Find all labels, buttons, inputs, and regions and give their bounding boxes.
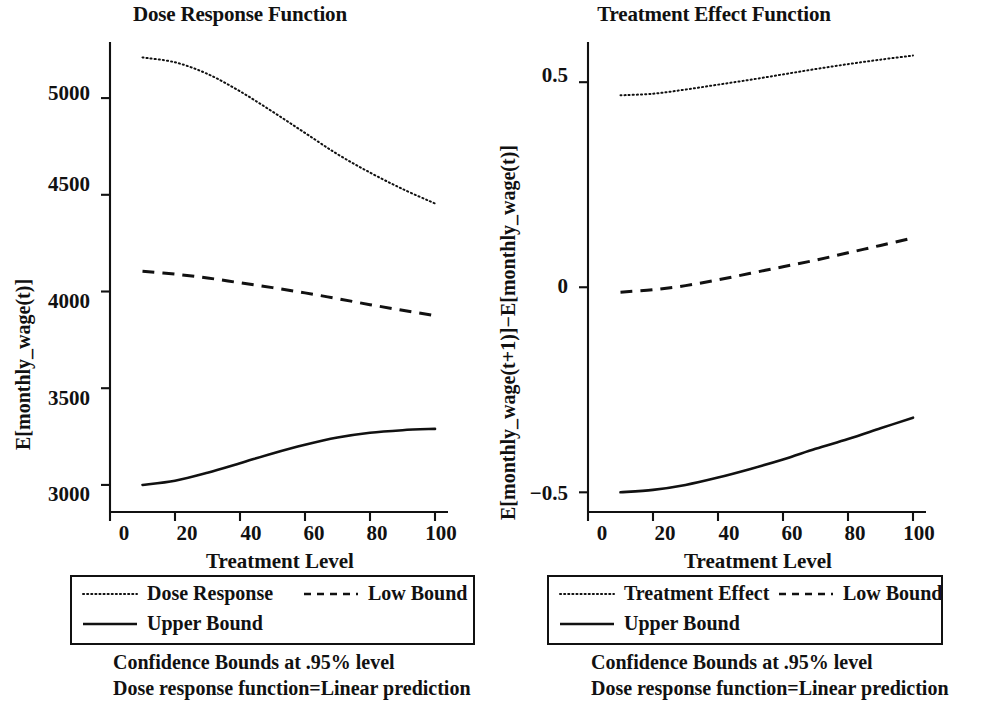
axis-ticks-left	[101, 98, 435, 521]
ytick-label-pos05: 0.5	[496, 63, 568, 88]
x-axis-title-left: Treatment Level	[130, 549, 430, 574]
legend-row-upper-bound: Upper Bound	[559, 612, 740, 635]
chart-panel-dose-response: Dose Response Function 3000 3500 4000 45…	[0, 0, 493, 707]
xtick-label-60: 60	[284, 521, 344, 546]
ytick-label-3000: 3000	[18, 482, 90, 507]
footnote-confidence-right: Confidence Bounds at .95% level	[591, 650, 873, 675]
xtick-label-80-right: 80	[825, 521, 885, 546]
legend-label-upper-bound: Upper Bound	[147, 612, 263, 635]
footnote-linear-prediction-right: Dose response function=Linear prediction	[591, 676, 949, 701]
legend-key-dashed-icon	[303, 587, 359, 601]
legend-row-low-bound: Low Bound	[303, 582, 468, 605]
legend-key-dotted-icon	[82, 587, 138, 601]
legend-label-low-bound: Low Bound	[843, 582, 943, 605]
legend-row-upper-bound: Upper Bound	[82, 612, 263, 635]
legend-key-dashed-icon	[778, 587, 834, 601]
ytick-label-4500: 4500	[18, 172, 90, 197]
series-line-low-bound	[621, 238, 914, 292]
data-series-right	[621, 56, 914, 493]
series-line-low-bound	[143, 271, 436, 315]
xtick-label-100-right: 100	[889, 521, 949, 546]
xtick-label-40-right: 40	[699, 521, 759, 546]
legend-label-upper-bound: Upper Bound	[624, 612, 740, 635]
legend-box-right: Treatment Effect Low Bound Upper Bound	[547, 575, 943, 645]
x-axis-title-right: Treatment Level	[608, 549, 908, 574]
xtick-label-80: 80	[347, 521, 407, 546]
legend-row-dose-response: Dose Response	[82, 582, 273, 605]
chart-panel-treatment-effect: Treatment Effect Function −0.5 0 0.5 0 2…	[494, 0, 987, 707]
series-line-dose-response	[143, 57, 436, 203]
footnote-linear-prediction-left: Dose response function=Linear prediction	[113, 676, 471, 701]
legend-label-low-bound: Low Bound	[368, 582, 468, 605]
footnote-confidence-left: Confidence Bounds at .95% level	[113, 650, 395, 675]
legend-key-solid-icon	[82, 617, 138, 631]
y-axis-title-left: E[monthly_wage(t)]	[12, 279, 35, 450]
xtick-label-60-right: 60	[762, 521, 822, 546]
legend-row-treatment-effect: Treatment Effect	[559, 582, 769, 605]
xtick-label-0-right: 0	[572, 521, 632, 546]
legend-key-dotted-icon	[559, 587, 615, 601]
data-series-left	[143, 57, 436, 484]
xtick-label-20: 20	[157, 521, 217, 546]
figure-page: Dose Response Function 3000 3500 4000 45…	[0, 0, 987, 707]
legend-label-dose-response: Dose Response	[147, 582, 273, 605]
axis-ticks-right	[579, 82, 913, 521]
series-line-treatment-effect	[621, 56, 914, 96]
legend-key-solid-icon	[559, 617, 615, 631]
legend-row-low-bound: Low Bound	[778, 582, 943, 605]
ytick-label-5000: 5000	[18, 81, 90, 106]
xtick-label-100: 100	[411, 521, 471, 546]
xtick-label-20-right: 20	[635, 521, 695, 546]
legend-label-treatment-effect: Treatment Effect	[624, 582, 769, 605]
series-line-upper-bound	[621, 418, 914, 493]
y-axis-title-right: E[monthly_wage(t+1)]−E[monthly_wage(t)]	[497, 145, 520, 520]
xtick-label-40: 40	[221, 521, 281, 546]
legend-box-left: Dose Response Low Bound Upper Bound	[70, 575, 475, 645]
series-line-upper-bound	[143, 429, 436, 485]
xtick-label-0: 0	[94, 521, 154, 546]
